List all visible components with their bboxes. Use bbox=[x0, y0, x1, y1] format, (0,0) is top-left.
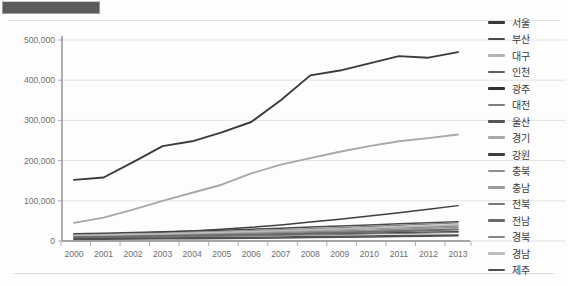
legend-item-2[interactable]: 대구 bbox=[488, 47, 564, 64]
svg-text:2005: 2005 bbox=[212, 249, 231, 259]
legend-item-15[interactable]: 제주 bbox=[488, 262, 564, 279]
svg-text:2013: 2013 bbox=[448, 249, 467, 259]
svg-text:2008: 2008 bbox=[301, 249, 320, 259]
legend-label: 서울 bbox=[512, 15, 530, 30]
series-line-7 bbox=[74, 134, 458, 222]
svg-text:2010: 2010 bbox=[360, 249, 379, 259]
svg-text:0: 0 bbox=[50, 236, 55, 246]
legend-label: 전북 bbox=[512, 196, 530, 211]
svg-text:100,000: 100,000 bbox=[24, 196, 55, 206]
legend-swatch-icon bbox=[488, 252, 505, 255]
legend-swatch-icon bbox=[488, 87, 505, 90]
legend-label: 대전 bbox=[512, 97, 530, 112]
svg-text:2006: 2006 bbox=[242, 249, 261, 259]
legend-swatch-icon bbox=[488, 54, 505, 57]
svg-text:500,000: 500,000 bbox=[24, 35, 55, 45]
legend-item-13[interactable]: 경북 bbox=[488, 229, 564, 246]
legend-swatch-icon bbox=[488, 136, 505, 139]
legend-item-6[interactable]: 울산 bbox=[488, 113, 564, 130]
legend-item-5[interactable]: 대전 bbox=[488, 97, 564, 114]
legend-label: 경기 bbox=[512, 130, 530, 145]
legend-label: 전남 bbox=[512, 213, 530, 228]
legend-label: 제주 bbox=[512, 262, 530, 277]
svg-text:2004: 2004 bbox=[183, 249, 202, 259]
legend-swatch-icon bbox=[488, 120, 505, 123]
legend-item-14[interactable]: 경남 bbox=[488, 245, 564, 262]
svg-text:2002: 2002 bbox=[124, 249, 143, 259]
legend-swatch-icon bbox=[488, 236, 505, 239]
legend-item-0[interactable]: 서울 bbox=[488, 14, 564, 31]
svg-text:2012: 2012 bbox=[419, 249, 438, 259]
y-axis-labels: 0100,000200,000300,000400,000500,000 bbox=[24, 35, 55, 246]
svg-text:2001: 2001 bbox=[94, 249, 113, 259]
legend-item-9[interactable]: 충북 bbox=[488, 163, 564, 180]
svg-text:2009: 2009 bbox=[330, 249, 349, 259]
legend-item-10[interactable]: 충남 bbox=[488, 179, 564, 196]
legend-item-1[interactable]: 부산 bbox=[488, 31, 564, 48]
legend-label: 경북 bbox=[512, 229, 530, 244]
legend-label: 충남 bbox=[512, 180, 530, 195]
legend-label: 충북 bbox=[512, 163, 530, 178]
svg-text:200,000: 200,000 bbox=[24, 156, 55, 166]
svg-text:300,000: 300,000 bbox=[24, 115, 55, 125]
svg-text:2007: 2007 bbox=[271, 249, 290, 259]
legend-item-12[interactable]: 전남 bbox=[488, 212, 564, 229]
legend-swatch-icon bbox=[488, 153, 505, 156]
legend-swatch-icon bbox=[488, 104, 505, 107]
legend-label: 부산 bbox=[512, 31, 530, 46]
svg-text:2003: 2003 bbox=[153, 249, 172, 259]
legend-item-7[interactable]: 경기 bbox=[488, 130, 564, 147]
legend-item-3[interactable]: 인천 bbox=[488, 64, 564, 81]
legend-swatch-icon bbox=[488, 71, 505, 74]
legend-swatch-icon bbox=[488, 21, 505, 24]
legend-label: 광주 bbox=[512, 81, 530, 96]
legend-label: 대구 bbox=[512, 48, 530, 63]
svg-text:2011: 2011 bbox=[390, 249, 409, 259]
x-axis-labels: 2000200120022003200420052006200720082009… bbox=[64, 249, 467, 259]
legend-label: 울산 bbox=[512, 114, 530, 129]
legend-item-4[interactable]: 광주 bbox=[488, 80, 564, 97]
legend-swatch-icon bbox=[488, 269, 505, 272]
legend-item-8[interactable]: 강원 bbox=[488, 146, 564, 163]
svg-text:2000: 2000 bbox=[64, 249, 83, 259]
legend-swatch-icon bbox=[488, 203, 505, 206]
legend-item-11[interactable]: 전북 bbox=[488, 196, 564, 213]
legend-label: 강원 bbox=[512, 147, 530, 162]
legend-swatch-icon bbox=[488, 219, 505, 222]
legend-swatch-icon bbox=[488, 186, 505, 189]
chart-screenshot-root: 0100,000200,000300,000400,000500,000 200… bbox=[0, 0, 568, 286]
svg-text:400,000: 400,000 bbox=[24, 75, 55, 85]
legend-swatch-icon bbox=[488, 170, 505, 173]
legend-label: 인천 bbox=[512, 64, 530, 79]
legend-label: 경남 bbox=[512, 246, 530, 261]
x-axis-ticks bbox=[61, 241, 471, 246]
line-chart: 0100,000200,000300,000400,000500,000 200… bbox=[0, 0, 568, 286]
legend-swatch-icon bbox=[488, 38, 505, 41]
chart-legend: 서울부산대구인천광주대전울산경기강원충북충남전북전남경북경남제주 bbox=[488, 14, 564, 278]
